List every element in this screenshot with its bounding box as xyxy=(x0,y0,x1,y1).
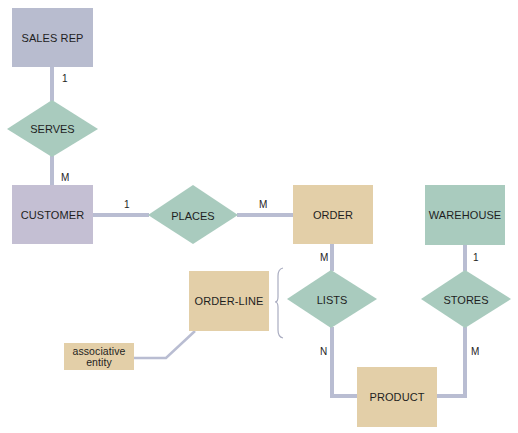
relationship-label-stores: STORES xyxy=(421,290,511,310)
entity-label: PRODUCT xyxy=(369,391,424,403)
entity-sales-rep: SALES REP xyxy=(12,8,93,67)
entity-label: SALES REP xyxy=(21,32,83,44)
entity-label: ORDER xyxy=(313,209,353,221)
cardinality-places-order: M xyxy=(259,199,267,210)
relationship-label-serves: SERVES xyxy=(7,119,98,139)
relationship-label-lists: LISTS xyxy=(287,290,377,310)
cardinality-salesrep-serves: 1 xyxy=(62,73,68,84)
cardinality-stores-product: M xyxy=(471,346,479,357)
entity-product: PRODUCT xyxy=(357,367,437,427)
connector-associative-pointer xyxy=(134,331,195,358)
associative-entity-label: associative entity xyxy=(68,346,130,368)
brace-icon xyxy=(275,268,283,338)
entity-customer: CUSTOMER xyxy=(12,185,93,244)
connector-lists-product xyxy=(332,327,358,396)
relationship-label-places: PLACES xyxy=(148,206,238,226)
entity-order: ORDER xyxy=(293,185,373,244)
entity-order-line: ORDER-LINE xyxy=(189,271,269,331)
entity-label: WAREHOUSE xyxy=(429,209,502,221)
entity-warehouse: WAREHOUSE xyxy=(425,185,505,245)
cardinality-customer-places: 1 xyxy=(124,199,130,210)
connector-stores-product xyxy=(436,327,465,396)
entity-label: CUSTOMER xyxy=(21,209,85,221)
cardinality-order-lists: M xyxy=(320,252,328,263)
cardinality-serves-customer: M xyxy=(61,172,69,183)
cardinality-lists-product: N xyxy=(320,346,327,357)
er-diagram: SALES REP CUSTOMER ORDER WAREHOUSE ORDER… xyxy=(0,0,518,433)
cardinality-warehouse-stores: 1 xyxy=(473,252,479,263)
entity-label: ORDER-LINE xyxy=(195,295,264,307)
associative-entity-label-box: associative entity xyxy=(64,343,134,370)
